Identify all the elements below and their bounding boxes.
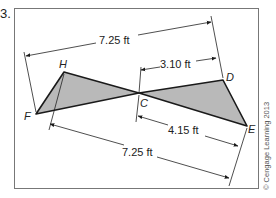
dim-arrow-415-left xyxy=(138,116,168,125)
dim-arrow-bottom-right xyxy=(157,157,229,178)
extension-line-e xyxy=(229,128,247,186)
point-label-f: F xyxy=(24,110,32,122)
point-label-h: H xyxy=(59,58,67,70)
dim-arrow-bottom-left xyxy=(50,124,124,145)
dim-arrow-415-right xyxy=(205,136,238,146)
dim-label-bottom-overall: 7.25 ft xyxy=(122,146,153,158)
copyright-credit: © Cengage Learning 2013 xyxy=(262,102,271,190)
dim-arrow-top-right xyxy=(138,22,211,35)
point-label-d: D xyxy=(226,71,234,83)
extension-line-f xyxy=(24,52,36,112)
point-label-e: E xyxy=(248,123,256,135)
triangle-cde xyxy=(139,80,247,126)
dim-arrow-310-left xyxy=(141,67,160,70)
dim-arrow-310-right xyxy=(196,58,216,61)
extension-line-c-up xyxy=(139,67,141,93)
point-label-c: C xyxy=(140,97,148,109)
extension-line-c-down xyxy=(136,95,139,122)
dim-label-bottom-partial: 4.15 ft xyxy=(168,124,199,136)
dim-label-top-partial: 3.10 ft xyxy=(160,58,191,70)
triangle-hfc xyxy=(36,72,139,114)
dim-arrow-top-left xyxy=(26,43,96,56)
dim-label-top-overall: 7.25 ft xyxy=(99,34,130,46)
triangle-diagram: 7.25 ft 3.10 ft 4.15 ft 7.25 ft H F C D … xyxy=(0,0,276,198)
extension-line-d xyxy=(211,16,223,78)
